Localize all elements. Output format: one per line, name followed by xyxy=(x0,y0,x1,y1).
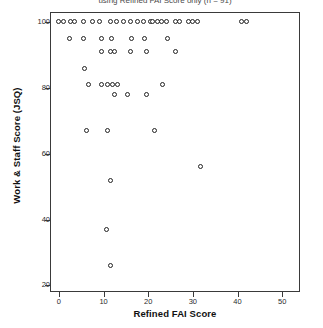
y-tick: 80 xyxy=(0,88,50,89)
data-point xyxy=(164,19,169,24)
data-point xyxy=(142,36,147,41)
data-point xyxy=(144,49,149,54)
x-tick-label: 40 xyxy=(223,298,253,306)
data-point xyxy=(152,128,157,133)
y-tick-mark xyxy=(45,22,50,23)
data-point xyxy=(198,164,203,169)
data-point xyxy=(160,82,165,87)
data-point xyxy=(115,82,120,87)
data-point xyxy=(104,227,109,232)
x-tick-mark xyxy=(59,292,60,297)
x-tick-label: 0 xyxy=(44,298,74,306)
data-point xyxy=(108,178,113,183)
data-point xyxy=(105,128,110,133)
y-axis-title: Work & Staff Score (JSQ) xyxy=(11,46,22,246)
data-point xyxy=(82,66,87,71)
x-tick-label: 30 xyxy=(178,298,208,306)
x-tick-mark xyxy=(238,292,239,297)
x-tick-mark xyxy=(282,292,283,297)
x-tick-label: 50 xyxy=(267,298,297,306)
x-tick-mark xyxy=(148,292,149,297)
data-point xyxy=(173,49,178,54)
data-point xyxy=(125,92,130,97)
y-tick: 100 xyxy=(0,22,50,23)
y-tick-mark xyxy=(45,285,50,286)
x-tick-mark xyxy=(104,292,105,297)
data-point xyxy=(135,19,140,24)
data-point xyxy=(105,82,110,87)
x-tick-label: 20 xyxy=(133,298,163,306)
scatter-plot-figure: using Refined FAI Score only (n = 91) 20… xyxy=(0,0,323,328)
data-point xyxy=(109,36,114,41)
x-tick-label: 10 xyxy=(89,298,119,306)
y-tick: 40 xyxy=(0,220,50,221)
x-axis-title: Refined FAI Score xyxy=(50,308,300,319)
data-point xyxy=(144,92,149,97)
y-tick-mark xyxy=(45,220,50,221)
data-point xyxy=(81,36,86,41)
y-tick-mark xyxy=(45,88,50,89)
y-tick: 60 xyxy=(0,154,50,155)
x-tick-mark xyxy=(193,292,194,297)
y-tick-mark xyxy=(45,154,50,155)
figure-title-clipped: using Refined FAI Score only (n = 91) xyxy=(40,0,290,5)
y-tick: 20 xyxy=(0,285,50,286)
data-point xyxy=(128,49,133,54)
data-point xyxy=(67,36,72,41)
